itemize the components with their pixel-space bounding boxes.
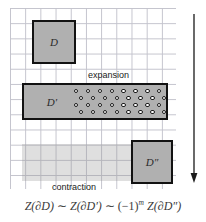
particle (115, 110, 119, 114)
particle (126, 96, 130, 100)
particle (138, 96, 142, 100)
particle (150, 96, 154, 100)
equation-sign-exponent: m (139, 198, 144, 207)
particle (98, 89, 102, 93)
particle (121, 103, 125, 107)
particle (145, 103, 149, 107)
particle (91, 96, 95, 100)
particle (162, 96, 166, 100)
particle (110, 89, 114, 93)
particle (79, 96, 83, 100)
equation-part-3: Z(∂D″) (147, 199, 181, 213)
domain-d-label: D (34, 36, 74, 48)
particle (86, 103, 90, 107)
particle (86, 89, 90, 93)
particle (133, 103, 137, 107)
domain-d-double-prime-label: D″ (133, 156, 171, 168)
particle (157, 89, 161, 93)
domain-d-prime: D′ (22, 83, 168, 120)
domain-d-double-prime: D″ (131, 140, 173, 184)
particle (150, 110, 154, 114)
domain-d: D (32, 20, 76, 64)
particle (157, 103, 161, 107)
particle (145, 89, 149, 93)
particle (98, 103, 102, 107)
particle (74, 103, 78, 107)
particle (133, 89, 137, 93)
particle (103, 96, 107, 100)
particle-field (72, 88, 163, 115)
expansion-label: expansion (88, 70, 129, 80)
particle (138, 110, 142, 114)
particle (79, 110, 83, 114)
particle (91, 110, 95, 114)
particle (121, 89, 125, 93)
time-arrow-icon (189, 14, 199, 184)
particle (74, 89, 78, 93)
domain-d-prime-label: D′ (32, 96, 72, 108)
equation-part-1: Z(∂D) (25, 199, 54, 213)
equation-sign-base: (−1) (118, 199, 139, 213)
equation-sim-1: ∼ (57, 199, 67, 213)
particle (162, 110, 166, 114)
particle (115, 96, 119, 100)
contraction-label: contraction (52, 182, 96, 192)
equation-sim-2: ∼ (105, 199, 115, 213)
particle (103, 110, 107, 114)
partition-function-diagram: D D′ D″ expansion contraction Z(∂D) ∼ Z(… (0, 0, 206, 222)
equation: Z(∂D) ∼ Z(∂D′) ∼ (−1)m Z(∂D″) (0, 198, 206, 214)
particle (110, 103, 114, 107)
equation-part-2: Z(∂D′) (70, 199, 102, 213)
particle (126, 110, 130, 114)
